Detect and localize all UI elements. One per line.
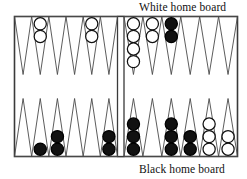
white-checker [203,131,215,143]
center-bar [118,17,125,157]
black-checker [165,18,177,30]
white-checker [127,30,139,42]
black-checker [103,143,115,155]
white-checker [222,143,234,155]
backgammon-board [0,0,247,179]
black-checker [184,143,196,155]
white-checker [146,18,158,30]
black-checker [34,143,46,155]
white-checker [222,131,234,143]
black-checker [103,131,115,143]
black-checker [165,118,177,130]
black-checker [165,30,177,42]
black-checker [127,143,139,155]
white-checker [34,18,46,30]
white-checker [127,18,139,30]
white-checker [127,56,139,68]
white-checker [86,18,98,30]
black-checker [51,143,63,155]
backgammon-board-figure: White home board Black home board [0,0,247,179]
black-checker [184,131,196,143]
white-checker [146,30,158,42]
black-checker [165,131,177,143]
white-checker [203,143,215,155]
black-checker [165,143,177,155]
white-checker [86,30,98,42]
white-checker [34,30,46,42]
black-checker [127,131,139,143]
white-checker [127,43,139,55]
black-checker [51,131,63,143]
black-home-board-label: Black home board [139,163,225,175]
white-checker [203,118,215,130]
black-checker [127,118,139,130]
